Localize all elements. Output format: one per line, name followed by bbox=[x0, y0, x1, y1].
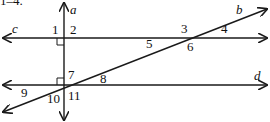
line-d: d bbox=[3, 68, 267, 85]
angle-4-label: 4 bbox=[221, 21, 228, 36]
angle-11-label: 11 bbox=[68, 88, 81, 103]
angle-10-label: 10 bbox=[47, 91, 60, 106]
right-angle-marker-bottom bbox=[57, 78, 64, 85]
angle-7-label: 7 bbox=[68, 67, 75, 82]
line-c-label: c bbox=[12, 21, 18, 36]
angle-8-label: 8 bbox=[100, 71, 107, 86]
line-b: b bbox=[3, 2, 267, 112]
angle-5-label: 5 bbox=[146, 36, 153, 51]
angle-9-label: 9 bbox=[21, 85, 28, 100]
line-a-label: a bbox=[70, 2, 77, 17]
angle-3-label: 3 bbox=[181, 21, 188, 36]
angle-1-label: 1 bbox=[52, 22, 59, 37]
angle-2-label: 2 bbox=[70, 22, 77, 37]
geometry-diagram: c d a b 1 2 3 4 5 6 7 8 9 10 11 bbox=[0, 0, 270, 122]
angle-6-label: 6 bbox=[187, 39, 194, 54]
right-angle-marker-top bbox=[57, 38, 64, 45]
line-d-label: d bbox=[254, 68, 261, 83]
line-b-label: b bbox=[236, 2, 243, 17]
